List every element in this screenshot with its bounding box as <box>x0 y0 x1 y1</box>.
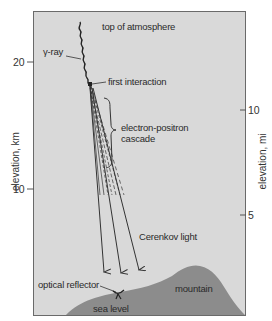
label-top-of-atmosphere: top of atmosphere <box>102 21 175 32</box>
right-tick-label-10: 10 <box>248 104 260 116</box>
label-cascade-line2: cascade <box>121 133 155 144</box>
right-tick-label-5: 5 <box>248 209 254 221</box>
label-optical-reflector: optical reflector <box>38 279 99 290</box>
label-mountain: mountain <box>175 283 212 294</box>
label-cascade-line1: electron-positron <box>121 122 188 133</box>
cascade-brace <box>104 98 116 168</box>
label-first-interaction: first interaction <box>108 76 166 87</box>
first-interaction-point <box>88 82 92 86</box>
label-sea-level: sea level <box>93 303 129 314</box>
left-axis-title: elevation, km <box>10 127 21 197</box>
first-interaction-leader <box>92 82 106 84</box>
right-axis-title: elevation, mi <box>257 127 268 197</box>
gamma-ray-leader <box>66 56 81 59</box>
label-gamma-ray: γ-ray <box>43 46 63 57</box>
gamma-ray-path <box>79 22 89 84</box>
label-cerenkov-light: Cerenkov light <box>139 231 197 242</box>
left-tick-label-20: 20 <box>13 56 25 68</box>
air-shower-diagram <box>0 0 272 321</box>
